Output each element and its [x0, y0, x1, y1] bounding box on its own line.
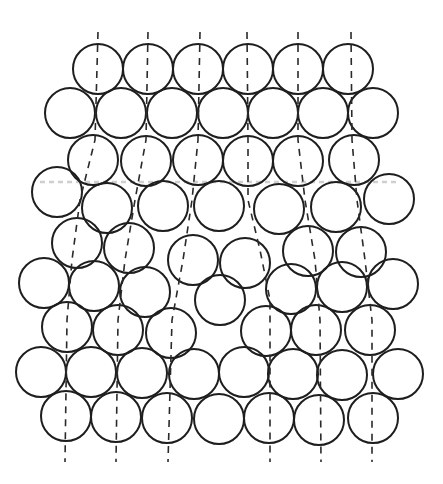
- atom-circle: [194, 394, 244, 444]
- atom-circle: [244, 393, 294, 443]
- atom-circle: [96, 88, 146, 138]
- atom-circle: [45, 88, 95, 138]
- atom-circle: [348, 88, 398, 138]
- atom-circle: [317, 350, 367, 400]
- atom-circle: [268, 349, 318, 399]
- atom-circle: [173, 44, 223, 94]
- atom-circle: [32, 167, 82, 217]
- atom-circle: [82, 183, 132, 233]
- atom-circle: [323, 44, 373, 94]
- atom-circle: [364, 174, 414, 224]
- atom-circle: [68, 135, 118, 185]
- atom-circle: [142, 393, 192, 443]
- dashed-lattice-line: [247, 32, 270, 462]
- atom-circle: [368, 259, 418, 309]
- atom-circle: [248, 88, 298, 138]
- atom-circle: [298, 88, 348, 138]
- atom-circle: [329, 135, 379, 185]
- atom-circle: [241, 306, 291, 356]
- atom-lattice: [16, 44, 423, 445]
- atom-circle: [294, 395, 344, 445]
- atom-circle: [121, 136, 171, 186]
- atom-circle: [169, 349, 219, 399]
- dislocation-diagram: [0, 0, 443, 484]
- atom-circle: [273, 136, 323, 186]
- atom-circle: [311, 182, 361, 232]
- atom-circle: [138, 181, 188, 231]
- atom-circle: [254, 184, 304, 234]
- atom-circle: [117, 348, 167, 398]
- atom-circle: [198, 88, 248, 138]
- atom-circle: [19, 258, 69, 308]
- atom-circle: [348, 393, 398, 443]
- atom-circle: [220, 238, 270, 288]
- atom-circle: [373, 349, 423, 399]
- atom-circle: [16, 347, 66, 397]
- atom-circle: [345, 305, 395, 355]
- atom-circle: [195, 275, 245, 325]
- lattice-lines: [65, 32, 372, 462]
- atom-circle: [291, 305, 341, 355]
- atom-circle: [194, 181, 244, 231]
- atom-circle: [219, 347, 269, 397]
- atom-circle: [66, 347, 116, 397]
- atom-circle: [104, 223, 154, 273]
- atom-circle: [147, 88, 197, 138]
